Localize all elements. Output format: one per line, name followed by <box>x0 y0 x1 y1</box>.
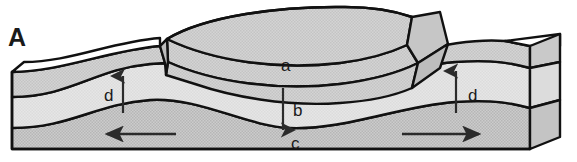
panel-letter: A <box>8 25 26 50</box>
layer-label-a: a <box>281 57 290 74</box>
geologic-block-diagram <box>0 0 577 162</box>
uplift-label-d-left: d <box>104 87 113 104</box>
layer-label-c: c <box>291 135 300 152</box>
uplift-label-d-right: d <box>468 87 477 104</box>
block-right-end-face-c <box>530 100 560 149</box>
layer-label-b: b <box>293 102 302 119</box>
figure-container: A a b c d d <box>0 0 577 162</box>
